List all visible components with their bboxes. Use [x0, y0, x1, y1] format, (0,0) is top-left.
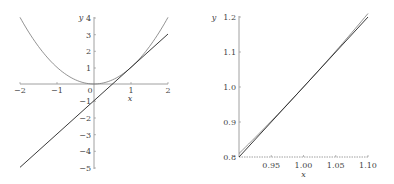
left-xtick-label: −2 — [14, 86, 26, 95]
right-ytick-label: 1.1 — [223, 48, 236, 57]
left-ytick-label: −2 — [79, 114, 91, 123]
right-ytick-label: 1.2 — [223, 13, 236, 22]
right-xtick-label: 0.95 — [262, 161, 280, 170]
left-ytick-label: −4 — [79, 147, 91, 156]
right-ytick-label: 0.9 — [223, 118, 236, 127]
right-ytick-label: 0.8 — [223, 153, 236, 162]
left-y-axis-label: y — [78, 13, 84, 22]
left-xtick-label: −1 — [51, 86, 63, 95]
right-ytick-label: 1.0 — [223, 83, 236, 92]
left-ytick-label: 1 — [86, 64, 91, 73]
right-y-axis-label: y — [211, 13, 217, 22]
left-ytick-label: −5 — [79, 164, 91, 173]
left-ytick-label: −3 — [79, 131, 91, 140]
right-xtick-label: 1.10 — [359, 161, 377, 170]
figure: −2 −1 0 1 2 x 4 3 2 1 −1 −2 −3 −4 −5 y — [0, 0, 394, 184]
left-ytick-label: 2 — [86, 47, 91, 56]
left-xtick-label: 2 — [165, 86, 170, 95]
left-chart: −2 −1 0 1 2 x 4 3 2 1 −1 −2 −3 −4 −5 y — [14, 13, 170, 173]
left-ytick-label: 4 — [86, 14, 91, 23]
right-xtick-label: 1.00 — [295, 161, 313, 170]
left-xtick-label: 0 — [87, 86, 92, 95]
right-parabola-curve — [239, 14, 368, 154]
right-xtick-label: 1.05 — [327, 161, 345, 170]
left-ytick-label: 3 — [86, 31, 91, 40]
left-x-axis-label: x — [128, 94, 133, 103]
right-x-axis-label: x — [301, 170, 306, 179]
right-tangent-line — [239, 17, 368, 157]
right-chart: 1.2 1.1 1.0 0.9 0.8 y 0.95 1.00 1.05 1.1… — [211, 13, 377, 179]
